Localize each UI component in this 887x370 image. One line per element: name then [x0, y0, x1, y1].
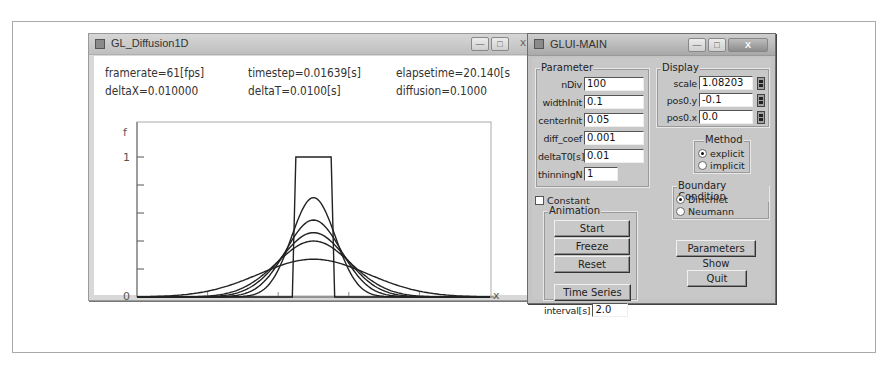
app-icon — [534, 39, 544, 49]
display-field-pos0-x: pos0.x0.0 — [659, 110, 765, 124]
y-axis-label: f — [123, 126, 128, 139]
display-input[interactable]: 1.08203 — [699, 76, 753, 90]
interval-label: interval[s] — [544, 305, 592, 316]
display-label: pos0.x — [659, 112, 699, 123]
parameter-panel-title: Parameter — [540, 62, 594, 73]
display-input[interactable]: 0.0 — [699, 110, 753, 124]
param-label: thinningN — [538, 169, 584, 180]
quit-button[interactable]: Quit — [687, 270, 747, 287]
spinner-icon[interactable] — [757, 94, 765, 107]
clipped-caption-text: ​ — [25, 0, 295, 3]
curve-t4 — [137, 241, 490, 297]
param-label: diff_coef — [538, 133, 584, 144]
param-input[interactable]: 0.1 — [584, 95, 644, 109]
param-input[interactable]: 1 — [584, 167, 618, 181]
plot-frame — [137, 122, 491, 297]
radio-dot[interactable] — [698, 161, 707, 170]
display-label: scale — [659, 78, 699, 89]
display-label: pos0.y — [659, 95, 699, 106]
time-series-button[interactable]: Time Series — [554, 284, 631, 301]
maximize-button[interactable]: □ — [708, 38, 726, 52]
method-panel: Method explicit implicit — [693, 140, 751, 174]
display-panel-title: Display — [661, 62, 700, 73]
param-input[interactable]: 0.01 — [584, 149, 644, 163]
radio-dot[interactable] — [676, 195, 685, 204]
gl-window-titlebar[interactable]: GL_Diffusion1D — □ X — [89, 34, 535, 55]
maximize-button[interactable]: □ — [491, 37, 509, 51]
param-label: deltaT0[s] — [538, 151, 584, 162]
param-input[interactable]: 100 — [584, 77, 644, 91]
param-field-diff-coef: diff_coef0.001 — [538, 131, 644, 145]
glui-title: GLUI-MAIN — [550, 38, 607, 50]
param-field-deltat0-s: deltaT0[s]0.01 — [538, 149, 644, 163]
param-field-ndiv: nDiv100 — [538, 77, 644, 91]
x-axis-label: x — [493, 289, 500, 301]
curve-t1 — [137, 198, 490, 297]
reset-button[interactable]: Reset — [554, 256, 630, 273]
radio-explicit[interactable]: explicit — [698, 148, 744, 159]
radio-implicit[interactable]: implicit — [698, 160, 745, 171]
radio-dot[interactable] — [698, 149, 707, 158]
gl-window-title: GL_Diffusion1D — [111, 37, 188, 49]
gl-diffusion-window: GL_Diffusion1D — □ X framerate=61[fps] t… — [88, 33, 536, 301]
display-field-scale: scale1.08203 — [659, 76, 765, 90]
interval-input[interactable]: 2.0 — [592, 303, 628, 317]
param-label: centerInit — [538, 115, 584, 126]
close-button[interactable]: X — [728, 38, 768, 52]
curve-initial-rect-pulse- — [137, 157, 490, 297]
animation-panel-title: Animation — [548, 205, 601, 216]
method-panel-title: Method — [704, 134, 744, 145]
start-button[interactable]: Start — [554, 220, 630, 237]
param-field-centerinit: centerInit0.05 — [538, 113, 644, 127]
boundary-condition-panel: Boundary Condition Dirichlet Neumann — [672, 186, 770, 220]
display-input[interactable]: -0.1 — [699, 93, 753, 107]
parameters-show-button[interactable]: Parameters Show — [676, 240, 756, 257]
diffusion-plot: f1001x — [94, 56, 534, 301]
glui-titlebar[interactable]: GLUI-MAIN — □ X — [528, 34, 775, 56]
glui-main-window: GLUI-MAIN — □ X Parameter nDiv100widthIn… — [527, 33, 776, 304]
radio-dirichlet[interactable]: Dirichlet — [676, 194, 728, 205]
parameter-panel: Parameter nDiv100widthInit0.1centerInit0… — [535, 68, 650, 188]
radio-dot[interactable] — [676, 207, 685, 216]
curve-t3 — [137, 233, 490, 297]
display-panel: Display scale1.08203pos0.y-0.1pos0.x0.0 — [656, 68, 770, 128]
minimize-button[interactable]: — — [471, 37, 489, 51]
spinner-icon[interactable] — [757, 111, 765, 124]
display-field-pos0-y: pos0.y-0.1 — [659, 93, 765, 107]
param-field-thinningn: thinningN1 — [538, 167, 618, 181]
radio-neumann[interactable]: Neumann — [676, 206, 734, 217]
param-label: nDiv — [538, 79, 584, 90]
minimize-button[interactable]: — — [688, 38, 706, 52]
gl-canvas[interactable]: framerate=61[fps] timestep=0.01639[s] el… — [94, 56, 531, 295]
param-input[interactable]: 0.001 — [584, 131, 644, 145]
glui-body: Parameter nDiv100widthInit0.1centerInit0… — [532, 58, 771, 299]
param-input[interactable]: 0.05 — [584, 113, 644, 127]
freeze-button[interactable]: Freeze — [554, 238, 630, 255]
param-label: widthInit — [538, 97, 584, 108]
interval-field: interval[s] 2.0 — [544, 303, 628, 317]
curve-t5 — [137, 259, 490, 297]
param-field-widthinit: widthInit0.1 — [538, 95, 644, 109]
spinner-icon[interactable] — [757, 77, 765, 90]
y-tick-label-0: 0 — [123, 290, 130, 301]
checkbox-box[interactable] — [535, 196, 544, 205]
y-tick-label-1: 1 — [123, 151, 130, 164]
app-icon — [95, 39, 105, 49]
